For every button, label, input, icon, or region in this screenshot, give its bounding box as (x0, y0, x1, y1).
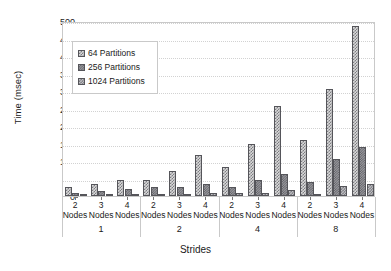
legend-swatch-icon (78, 50, 85, 57)
x-tick-mark (310, 197, 311, 200)
bar-cluster (274, 23, 296, 196)
bar (80, 194, 87, 196)
bar (195, 155, 202, 196)
chart-legend: 64 Partitions256 Partitions1024 Partitio… (72, 41, 158, 94)
bar (255, 180, 262, 196)
legend-item: 256 Partitions (78, 60, 152, 74)
legend-swatch-icon (78, 78, 85, 85)
bar-cluster (326, 23, 348, 196)
stride-group-label: 4 (228, 224, 288, 234)
group-separator (219, 197, 220, 237)
bar (236, 193, 243, 196)
bar (151, 187, 158, 196)
legend-label: 64 Partitions (88, 48, 135, 58)
group-separator (62, 197, 63, 237)
group-separator (297, 197, 298, 237)
bar (125, 189, 132, 196)
bar (65, 187, 72, 196)
bar-cluster (195, 23, 217, 196)
bar (169, 171, 176, 196)
bar-cluster (248, 23, 270, 196)
bar (326, 89, 333, 196)
bar (300, 140, 307, 196)
legend-item: 1024 Partitions (78, 74, 152, 88)
bar (352, 26, 359, 196)
bar-cluster (169, 23, 191, 196)
group-separator (140, 197, 141, 237)
legend-swatch-icon (78, 64, 85, 71)
bar (98, 191, 105, 196)
x-tick-mark (127, 197, 128, 200)
group-separator (375, 197, 376, 237)
bar (274, 106, 281, 196)
legend-label: 256 Partitions (88, 62, 140, 72)
bar (184, 194, 191, 196)
bar (91, 184, 98, 196)
bar (262, 193, 269, 197)
x-tick-mark (153, 197, 154, 200)
stride-group-label: 2 (149, 224, 209, 234)
bar (117, 180, 124, 196)
y-axis-title: Time (msec) (12, 43, 23, 153)
bar (367, 184, 374, 196)
bar (288, 190, 295, 196)
x-tick-mark (284, 197, 285, 200)
bar (333, 159, 340, 196)
bar (158, 194, 165, 196)
bar (340, 186, 347, 197)
bar (203, 184, 210, 196)
x-tick-mark (336, 197, 337, 200)
legend-label: 1024 Partitions (88, 76, 145, 86)
legend-item: 64 Partitions (78, 46, 152, 60)
bar (210, 193, 217, 196)
bar (359, 147, 366, 196)
bar (307, 182, 314, 196)
bar-cluster (300, 23, 322, 196)
x-axis-title: Strides (0, 244, 391, 255)
bar (314, 194, 321, 196)
x-tick-mark (232, 197, 233, 200)
bar (177, 187, 184, 196)
x-tick-mark (258, 197, 259, 200)
x-tick-mark (179, 197, 180, 200)
x-tick-mark (101, 197, 102, 200)
x-tick-mark (75, 197, 76, 200)
bar-chart: Time (msec) Strides 05010015020025030035… (0, 0, 391, 271)
bar-cluster (352, 23, 374, 196)
bar (143, 180, 150, 196)
bar (222, 167, 229, 196)
bar (229, 187, 236, 196)
bar (281, 174, 288, 196)
bar (132, 194, 139, 196)
x-tick-mark (205, 197, 206, 200)
stride-group-label: 1 (71, 224, 131, 234)
bar (106, 194, 113, 196)
bar-cluster (222, 23, 244, 196)
stride-group-label: 8 (306, 224, 366, 234)
x-tick-mark (362, 197, 363, 200)
bar (248, 144, 255, 197)
bar (72, 193, 79, 197)
